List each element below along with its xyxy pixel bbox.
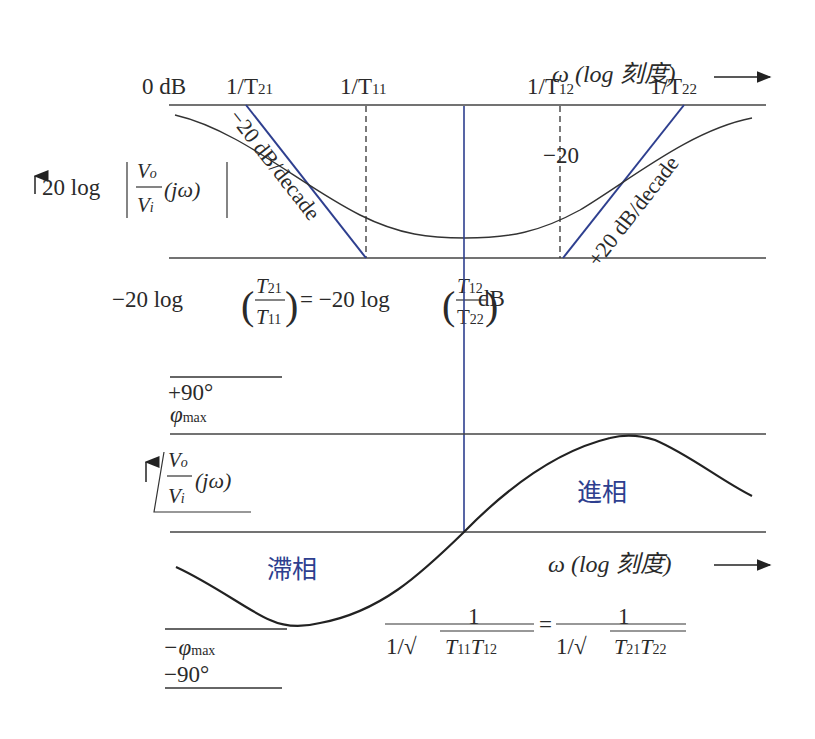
svg-text:1/√: 1/√ [556, 634, 587, 659]
svg-text:T21: T21 [256, 274, 282, 298]
magnitude-y-prefix: 20 log [42, 175, 101, 200]
lead-label: 進相 [577, 478, 627, 507]
svg-text:=: = [539, 612, 552, 637]
svg-text:1: 1 [468, 604, 480, 629]
svg-text:1: 1 [618, 604, 630, 629]
phi-max-label: φmax [170, 402, 207, 427]
magnitude-y-suffix: (jω) [164, 177, 200, 202]
minus20-label: −20 [543, 143, 579, 168]
svg-text:dB: dB [478, 286, 505, 311]
svg-text:(: ( [442, 283, 455, 328]
floor-equation: −20 log ( T21 T11 ) = −20 log ( T12 T22 … [112, 274, 505, 329]
magnitude-plot: ω (log 刻度) 0 dB 1/T21 1/T11 1/T12 1/T22 … [35, 61, 770, 329]
minus90-label: −90° [164, 662, 209, 687]
svg-text:(: ( [241, 283, 254, 328]
slope-down-label: −20 dB/decade [224, 105, 325, 225]
svg-text:T11T12: T11T12 [445, 634, 497, 659]
svg-text:): ) [285, 283, 298, 328]
phase-frac-num: Vo [168, 448, 188, 472]
magnitude-frac-num: Vo [137, 159, 157, 183]
svg-text:= −20 log: = −20 log [300, 287, 390, 312]
center-frequency-equation: 1 1/√ T11T12 = 1 1/√ T21T22 [385, 604, 686, 659]
zero-db-label: 0 dB [142, 74, 186, 99]
minus-phi-max-label: −φmax [163, 635, 215, 660]
svg-text:T11: T11 [256, 305, 281, 329]
phase-y-suffix: (jω) [195, 468, 231, 493]
phase-plot: +90° φmax Vo Vi (jω) 進相 滯相 ω (log 刻度) −φ… [146, 377, 770, 688]
corner-label-t22: 1/T22 [650, 74, 697, 99]
svg-text:−20 log: −20 log [112, 287, 184, 312]
asymptote-down [246, 105, 366, 258]
svg-text:1/√: 1/√ [386, 634, 417, 659]
corner-label-t21: 1/T21 [226, 74, 273, 99]
svg-text:T21T22: T21T22 [614, 634, 667, 659]
corner-label-t11: 1/T11 [340, 74, 386, 99]
phase-axis-label: ω (log 刻度) [548, 551, 672, 577]
lag-label: 滯相 [267, 555, 317, 584]
magnitude-frac-den: Vi [137, 193, 154, 217]
phase-frac-den: Vi [168, 484, 185, 508]
lead-lag-bode-diagram: ω (log 刻度) 0 dB 1/T21 1/T11 1/T12 1/T22 … [0, 0, 815, 739]
